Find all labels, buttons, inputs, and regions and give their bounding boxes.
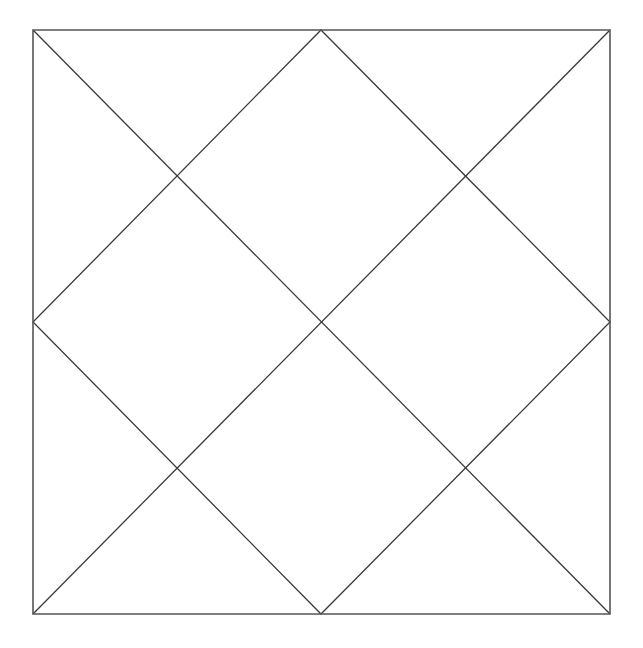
canvas-background [0,0,643,648]
geometric-figure-canvas [0,0,643,648]
